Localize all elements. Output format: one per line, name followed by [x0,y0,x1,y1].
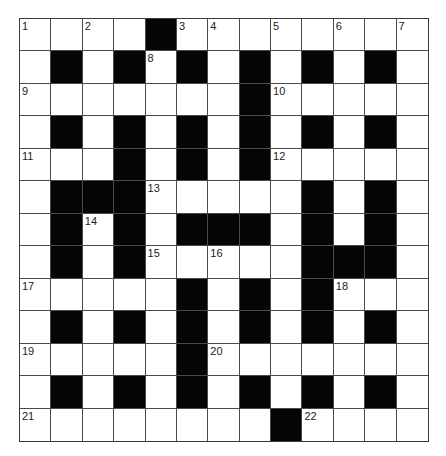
letter-cell[interactable] [20,51,51,83]
letter-cell[interactable] [240,344,271,376]
letter-cell[interactable]: 21 [20,409,51,441]
letter-cell[interactable]: 19 [20,344,51,376]
letter-cell[interactable] [83,51,114,83]
letter-cell[interactable] [302,344,333,376]
letter-cell[interactable]: 2 [83,19,114,51]
letter-cell[interactable] [334,214,365,246]
letter-cell[interactable] [51,19,82,51]
letter-cell[interactable] [20,311,51,343]
letter-cell[interactable]: 4 [208,19,239,51]
letter-cell[interactable] [83,149,114,181]
letter-cell[interactable] [51,84,82,116]
letter-cell[interactable] [51,344,82,376]
letter-cell[interactable] [20,246,51,278]
letter-cell[interactable]: 20 [208,344,239,376]
letter-cell[interactable] [334,51,365,83]
letter-cell[interactable] [365,84,396,116]
letter-cell[interactable]: 15 [146,246,177,278]
letter-cell[interactable] [271,376,302,408]
letter-cell[interactable] [334,344,365,376]
letter-cell[interactable] [240,181,271,213]
letter-cell[interactable] [334,409,365,441]
letter-cell[interactable] [83,344,114,376]
letter-cell[interactable] [146,344,177,376]
letter-cell[interactable] [208,409,239,441]
letter-cell[interactable] [397,311,428,343]
letter-cell[interactable] [334,84,365,116]
letter-cell[interactable] [114,409,145,441]
letter-cell[interactable]: 9 [20,84,51,116]
letter-cell[interactable] [114,279,145,311]
letter-cell[interactable] [397,84,428,116]
letter-cell[interactable] [397,149,428,181]
letter-cell[interactable]: 17 [20,279,51,311]
letter-cell[interactable] [20,214,51,246]
letter-cell[interactable] [208,51,239,83]
letter-cell[interactable] [302,149,333,181]
letter-cell[interactable]: 6 [334,19,365,51]
letter-cell[interactable]: 8 [146,51,177,83]
letter-cell[interactable] [365,409,396,441]
letter-cell[interactable] [20,116,51,148]
letter-cell[interactable] [334,149,365,181]
letter-cell[interactable] [20,376,51,408]
letter-cell[interactable] [334,181,365,213]
letter-cell[interactable] [208,311,239,343]
letter-cell[interactable] [208,279,239,311]
letter-cell[interactable] [397,376,428,408]
letter-cell[interactable] [208,376,239,408]
letter-cell[interactable] [146,116,177,148]
letter-cell[interactable] [83,279,114,311]
letter-cell[interactable] [334,116,365,148]
letter-cell[interactable] [271,344,302,376]
letter-cell[interactable] [271,279,302,311]
letter-cell[interactable] [83,409,114,441]
letter-cell[interactable]: 3 [177,19,208,51]
letter-cell[interactable] [177,409,208,441]
letter-cell[interactable] [146,214,177,246]
letter-cell[interactable] [208,149,239,181]
letter-cell[interactable] [146,409,177,441]
letter-cell[interactable] [365,279,396,311]
letter-cell[interactable] [334,311,365,343]
letter-cell[interactable] [83,116,114,148]
letter-cell[interactable]: 12 [271,149,302,181]
letter-cell[interactable] [208,84,239,116]
letter-cell[interactable] [271,214,302,246]
letter-cell[interactable] [83,246,114,278]
letter-cell[interactable] [271,51,302,83]
letter-cell[interactable]: 5 [271,19,302,51]
letter-cell[interactable] [51,279,82,311]
letter-cell[interactable] [397,116,428,148]
letter-cell[interactable] [208,181,239,213]
letter-cell[interactable] [240,19,271,51]
letter-cell[interactable]: 10 [271,84,302,116]
letter-cell[interactable]: 18 [334,279,365,311]
letter-cell[interactable] [146,279,177,311]
letter-cell[interactable]: 14 [83,214,114,246]
letter-cell[interactable]: 22 [302,409,333,441]
letter-cell[interactable]: 13 [146,181,177,213]
letter-cell[interactable] [83,376,114,408]
letter-cell[interactable] [114,19,145,51]
letter-cell[interactable] [146,149,177,181]
letter-cell[interactable] [51,149,82,181]
letter-cell[interactable] [51,409,82,441]
letter-cell[interactable] [397,409,428,441]
letter-cell[interactable] [397,279,428,311]
letter-cell[interactable]: 7 [397,19,428,51]
letter-cell[interactable]: 16 [208,246,239,278]
letter-cell[interactable] [146,311,177,343]
letter-cell[interactable] [114,344,145,376]
letter-cell[interactable] [177,246,208,278]
letter-cell[interactable] [334,376,365,408]
letter-cell[interactable] [302,84,333,116]
letter-cell[interactable] [240,409,271,441]
letter-cell[interactable] [271,246,302,278]
letter-cell[interactable] [271,181,302,213]
letter-cell[interactable]: 1 [20,19,51,51]
letter-cell[interactable] [271,116,302,148]
letter-cell[interactable] [177,84,208,116]
letter-cell[interactable] [114,84,145,116]
letter-cell[interactable] [208,116,239,148]
